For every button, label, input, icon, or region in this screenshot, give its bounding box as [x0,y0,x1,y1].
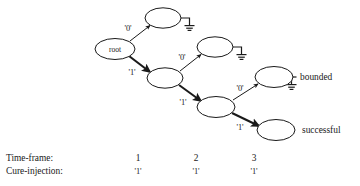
annotation-bounded: bounded [300,72,333,82]
node-terminal-3-bounded [255,67,293,88]
annotation-successful: successful [302,125,341,135]
legend-row-label-time-frame: Time-frame: [6,153,53,163]
node-terminal-2 [197,37,233,57]
edge-root-to-terminal-1 [130,26,150,42]
node-leaf-successful [257,120,295,141]
search-tree-figure: root '0' '1' '0' '1' '0' '1' bounded suc… [0,0,360,186]
ground-icon [233,47,247,59]
ground-icon [181,18,195,30]
legend-cure-injection-3: '1' [250,167,258,176]
legend-cure-injection-1: '1' [134,167,142,176]
legend-group: Time-frame: Cure-injection: 1 '1' 2 '1' … [6,153,258,176]
node-terminal-1 [145,8,181,28]
edge-label-level1-0: '0' [178,53,186,62]
node-level-2 [197,97,235,118]
legend-time-frame-2: 2 [194,153,199,163]
legend-time-frame-1: 1 [136,153,141,163]
edge-label-level1-1: '1' [179,98,187,107]
edge-label-root-1: '1' [128,68,136,77]
legend-cure-injection-2: '1' [192,167,200,176]
legend-row-label-cure-injection: Cure-injection: [6,166,63,176]
annotation-group: bounded successful [300,72,341,135]
edge-label-root-0: '0' [124,24,132,33]
edge-label-level2-0: '0' [236,84,244,93]
search-tree-canvas: root '0' '1' '0' '1' '0' '1' bounded suc… [0,0,360,186]
node-level-1 [147,68,183,88]
node-root-label: root [109,45,122,54]
legend-time-frame-3: 3 [252,153,257,163]
edge-label-level2-1: '1' [236,123,244,132]
